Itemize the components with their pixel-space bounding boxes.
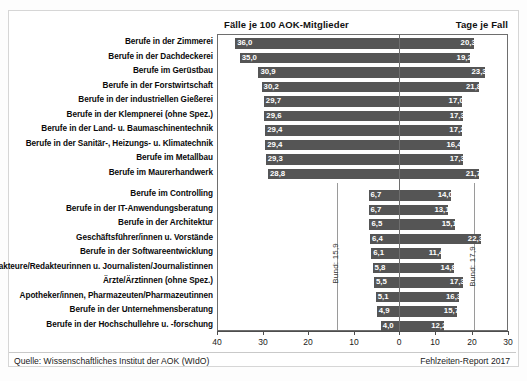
bar-value-left: 5,5 [374, 277, 389, 288]
x-tick-right-20-mark [472, 331, 473, 335]
bar-value-right: 16,3 [400, 292, 463, 303]
bar-row: Berufe im Controlling6,714,0 [0, 188, 527, 203]
bar-value-right: 16,4 [400, 140, 464, 151]
category-label: Berufe in der Klempnerei (ohne Spez.) [67, 110, 213, 119]
bar-value-left: 4,0 [381, 321, 396, 332]
bar-left-faelle [264, 111, 399, 122]
bar-value-right: 13,1 [400, 205, 452, 216]
bar-row: Berufe in der Land- u. Baumaschinentechn… [0, 123, 527, 138]
x-tick-left-30-label: 30 [258, 337, 267, 347]
category-label: Berufe in der Dachdeckerei [108, 52, 213, 61]
bar-value-right: 15,7 [400, 306, 461, 317]
category-label: Berufe im Controlling [130, 189, 213, 198]
bar-value-right: 17,3 [400, 111, 467, 122]
x-tick-left-30-mark [263, 331, 264, 335]
bar-left-faelle [262, 82, 399, 93]
figure-canvas: Fälle je 100 AOK-Mitglieder Tage je Fall… [0, 0, 527, 381]
footer-divider [9, 352, 516, 353]
bar-row: Berufe in der Forstwirtschaft30,221,8 [0, 80, 527, 95]
category-label: Berufe in der industriellen Gießerei [78, 95, 213, 104]
bar-value-right: 21,7 [400, 169, 483, 180]
bar-value-left: 36,0 [235, 38, 254, 49]
bar-value-left: 29,3 [266, 154, 285, 165]
bar-value-right: 17,2 [400, 125, 466, 136]
category-label: Berufe in der Land- u. Baumaschinentechn… [41, 124, 213, 133]
x-tick-right-10-mark [435, 331, 436, 335]
bar-left-faelle [266, 154, 399, 165]
bar-value-right: 23,3 [400, 67, 489, 78]
bar-value-left: 29,7 [264, 96, 283, 107]
category-label: Berufe in der Softwareentwicklung [80, 247, 213, 256]
report-note: Fehlzeiten-Report 2017 [420, 356, 510, 366]
x-tick-right-0-mark [399, 331, 400, 335]
category-label: Berufe in der Unternehmensberatung [70, 305, 213, 314]
x-tick-right-0-label: 0 [397, 337, 402, 347]
bar-value-left: 6,4 [370, 234, 385, 245]
category-label: Berufe in der Sanitär-, Heizungs- u. Kli… [26, 139, 213, 148]
bar-value-left: 5,8 [373, 263, 388, 274]
bar-value-left: 29,4 [265, 125, 284, 136]
x-tick-left-20-label: 20 [303, 337, 312, 347]
bar-row: Berufe in der Zimmerei36,020,3 [0, 36, 527, 51]
bar-value-right: 12,2 [400, 321, 448, 332]
bar-value-right: 17,3 [400, 154, 467, 165]
category-label: Berufe in der Forstwirtschaft [103, 81, 213, 90]
bar-row: Berufe im Gerüstbau30,923,3 [0, 65, 527, 80]
bar-value-left: 5,1 [376, 292, 391, 303]
bar-value-left: 29,4 [265, 140, 284, 151]
x-tick-left-20-mark [308, 331, 309, 335]
x-axis-line [217, 331, 508, 332]
category-label: Berufe im Metallbau [136, 153, 213, 162]
bar-row: Berufe in der Unternehmensberatung4,915,… [0, 304, 527, 319]
bar-row: Berufe in der IT-Anwendungsberatung6,713… [0, 203, 527, 218]
column-header-left: Fälle je 100 AOK-Mitglieder [224, 19, 349, 30]
category-label: Berufe in der Architektur [118, 218, 213, 227]
x-tick-left-10-mark [354, 331, 355, 335]
category-label: Redakteure/Redakteurinnen u. Journaliste… [0, 262, 213, 271]
bar-value-right: 19,2 [400, 53, 474, 64]
category-label: Berufe im Gerüstbau [133, 66, 213, 75]
bar-value-left: 30,9 [258, 67, 277, 78]
bar-left-faelle [265, 125, 399, 136]
bar-row: Berufe in der Klempnerei (ohne Spez.)29,… [0, 109, 527, 124]
bar-row: Apotheker/innen, Pharmazeuten/Pharmazeut… [0, 290, 527, 305]
x-tick-left-40-mark [217, 331, 218, 335]
bar-value-right: 14,0 [400, 190, 455, 201]
bar-row: Redakteure/Redakteurinnen u. Journaliste… [0, 261, 527, 276]
x-tick-left-40-label: 40 [212, 337, 221, 347]
bar-left-faelle [268, 169, 399, 180]
bar-row: Berufe in der Dachdeckerei35,019,2 [0, 51, 527, 66]
category-label: Berufe in der IT-Anwendungsberatung [66, 204, 213, 213]
category-label: Ärzte/Ärztinnen (ohne Spez.) [103, 276, 213, 285]
bar-value-left: 35,0 [240, 53, 259, 64]
column-header-right: Tage je Fall [456, 19, 508, 30]
bar-row: Geschäftsführer/innen u. Vorstände6,422,… [0, 232, 527, 247]
bar-row: Berufe in der industriellen Gießerei29,7… [0, 94, 527, 109]
bar-left-faelle [264, 96, 399, 107]
bar-left-faelle [265, 140, 399, 151]
category-label: Berufe im Maurerhandwerk [109, 168, 213, 177]
bar-value-right: 20,3 [400, 38, 478, 49]
bar-value-right: 11,4 [400, 248, 445, 259]
category-label: Berufe in der Hochschullehre u. -forschu… [46, 320, 213, 329]
x-tick-right-10-label: 10 [430, 337, 439, 347]
bar-value-left: 6,5 [369, 219, 384, 230]
bar-value-left: 6,1 [371, 248, 386, 259]
category-label: Berufe in der Zimmerei [125, 37, 213, 46]
category-label: Apotheker/innen, Pharmazeuten/Pharmazeut… [20, 291, 213, 300]
bar-value-right: 21,8 [400, 82, 483, 93]
bar-row: Ärzte/Ärztinnen (ohne Spez.)5,517,3 [0, 275, 527, 290]
bar-left-faelle [235, 38, 399, 49]
x-tick-right-20-label: 20 [467, 337, 476, 347]
bar-value-right: 17,0 [400, 96, 466, 107]
bar-value-left: 30,2 [262, 82, 281, 93]
bar-value-left: 6,7 [369, 190, 384, 201]
bar-value-right: 22,3 [400, 234, 485, 245]
category-label: Geschäftsführer/innen u. Vorstände [76, 233, 213, 242]
bar-value-left: 4,9 [377, 306, 392, 317]
bar-value-right: 14,8 [400, 263, 458, 274]
bar-left-faelle [258, 67, 399, 78]
bar-value-left: 6,7 [369, 205, 384, 216]
bar-row: Berufe in der Sanitär-, Heizungs- u. Kli… [0, 138, 527, 153]
bar-row: Berufe in der Architektur6,515,1 [0, 217, 527, 232]
